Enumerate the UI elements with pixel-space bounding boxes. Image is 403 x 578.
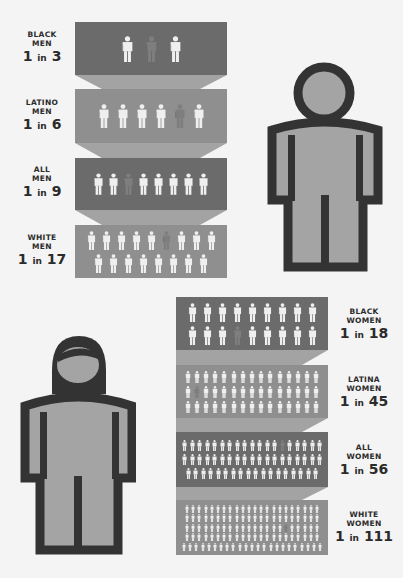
person-icon [250, 543, 254, 551]
person-icon [272, 454, 277, 465]
person-icon [312, 543, 316, 551]
person-icon [265, 505, 269, 513]
person-icon [278, 505, 282, 513]
person-icon [208, 468, 213, 479]
group-name: WHITE [332, 510, 396, 519]
figure-row [94, 254, 208, 273]
person-icon [277, 386, 283, 398]
person-icon [278, 326, 287, 345]
person-icon [302, 454, 307, 465]
person-icon [191, 514, 195, 522]
person-icon [309, 533, 313, 541]
person-icon [257, 454, 262, 465]
person-icon [249, 401, 255, 413]
person-icon [309, 505, 313, 513]
person-icon [309, 514, 313, 522]
person-icon [265, 514, 269, 522]
person-icon [275, 543, 279, 551]
person-icon [278, 524, 282, 532]
person-icon [315, 524, 319, 532]
person-icon [197, 533, 201, 541]
person-icon [265, 533, 269, 541]
person-icon [231, 371, 237, 383]
person-icon [118, 104, 128, 128]
person-icon [175, 104, 185, 128]
person-icon [295, 386, 301, 398]
group-gender: WOMEN [332, 384, 396, 393]
group-gender: WOMEN [332, 519, 396, 528]
label-all-women: ALL WOMEN 1 in 56 [332, 443, 396, 479]
figure-row [99, 104, 204, 128]
figure-row [182, 440, 322, 451]
person-icon [265, 454, 270, 465]
ratio-text: 1 in 56 [332, 461, 396, 479]
person-icon [281, 543, 285, 551]
person-icon [290, 505, 294, 513]
person-icon [223, 468, 228, 479]
person-icon [308, 303, 317, 322]
figure-row [185, 371, 320, 383]
person-icon [122, 36, 133, 62]
person-icon [308, 326, 317, 345]
person-icon [280, 440, 285, 451]
person-icon [203, 371, 209, 383]
person-icon [296, 505, 300, 513]
person-icon [272, 440, 277, 451]
person-icon [222, 514, 226, 522]
person-icon [139, 254, 148, 273]
figure-row [182, 454, 322, 465]
person-icon [218, 303, 227, 322]
person-icon [263, 303, 272, 322]
person-icon [188, 543, 192, 551]
person-icon [298, 468, 303, 479]
person-icon [272, 514, 276, 522]
person-icon [259, 524, 263, 532]
person-icon [117, 231, 126, 250]
person-icon [220, 454, 225, 465]
person-icon [212, 386, 218, 398]
person-icon [295, 401, 301, 413]
ratio-text: 1 in 3 [12, 48, 72, 66]
person-icon [267, 401, 273, 413]
person-icon [188, 326, 197, 345]
ratio-text: 1 in 18 [332, 325, 396, 343]
person-icon [265, 440, 270, 451]
person-icon [293, 303, 302, 322]
person-icon [257, 440, 262, 451]
person-icon [109, 173, 118, 195]
person-icon [241, 533, 245, 541]
person-icon [227, 440, 232, 451]
person-icon [247, 524, 251, 532]
person-icon [207, 231, 216, 250]
person-icon [317, 440, 322, 451]
person-icon [258, 386, 264, 398]
person-icon [247, 514, 251, 522]
person-icon [235, 524, 239, 532]
person-icon [169, 254, 178, 273]
person-icon [277, 401, 283, 413]
label-black-men: BLACK MEN 1 in 3 [12, 30, 72, 66]
person-icon [313, 468, 318, 479]
figure-row [185, 533, 319, 541]
group-name: LATINA [332, 375, 396, 384]
person-icon [194, 543, 198, 551]
person-icon [197, 505, 201, 513]
person-icon [303, 514, 307, 522]
person-icon [247, 505, 251, 513]
person-icon [221, 401, 227, 413]
person-icon [290, 524, 294, 532]
person-icon [259, 514, 263, 522]
person-icon [263, 326, 272, 345]
person-icon [210, 505, 214, 513]
person-icon [197, 454, 202, 465]
person-icon [280, 454, 285, 465]
person-icon [191, 524, 195, 532]
person-icon [235, 533, 239, 541]
person-icon [241, 524, 245, 532]
person-icon [137, 104, 147, 128]
person-icon [293, 326, 302, 345]
person-icon [295, 440, 300, 451]
label-all-men: ALL MEN 1 in 9 [12, 165, 72, 201]
person-icon [250, 454, 255, 465]
person-icon [246, 468, 251, 479]
